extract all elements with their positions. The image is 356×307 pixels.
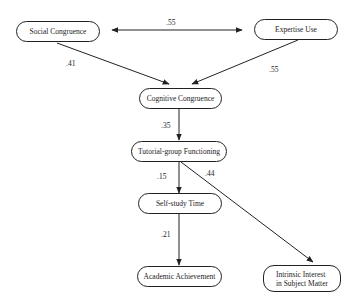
- node-social-congruence: Social Congruence: [16, 21, 100, 42]
- node-label: Self-study Time: [156, 199, 204, 208]
- coefficient-expertise-cognitive: .55: [269, 66, 278, 74]
- node-label: Social Congruence: [30, 27, 87, 36]
- node-academic-achievement: Academic Achievement: [137, 266, 222, 287]
- node-expertise-use: Expertise Use: [254, 19, 338, 40]
- node-label: Academic Achievement: [144, 272, 216, 281]
- coefficient-tutorial-intrinsic: .44: [205, 170, 214, 178]
- node-label: Cognitive Congruence: [147, 94, 215, 103]
- node-intrinsic-interest: Intrinsic Interest in Subject Matter: [263, 265, 341, 292]
- coefficient-social-expertise: .55: [166, 19, 175, 27]
- path-diagram: Social Congruence Expertise Use Cognitiv…: [0, 0, 356, 307]
- coefficient-social-cognitive: .41: [66, 60, 75, 68]
- node-tutorial-group-functioning: Tutorial-group Functioning: [131, 141, 227, 162]
- node-label: Tutorial-group Functioning: [138, 147, 220, 156]
- coefficient-tutorial-selfstudy: .15: [157, 173, 166, 181]
- edge-expertise-cognitive: [192, 40, 298, 84]
- coefficient-cognitive-tutorial: .35: [161, 122, 170, 130]
- node-cognitive-congruence: Cognitive Congruence: [139, 88, 222, 109]
- node-label-line1: Intrinsic Interest: [276, 270, 328, 279]
- coefficient-selfstudy-academic: .21: [161, 231, 170, 239]
- node-self-study-time: Self-study Time: [138, 193, 222, 214]
- node-label-line2: in Subject Matter: [276, 279, 328, 288]
- node-label: Expertise Use: [275, 25, 317, 34]
- node-label-wrap: Intrinsic Interest in Subject Matter: [276, 270, 328, 288]
